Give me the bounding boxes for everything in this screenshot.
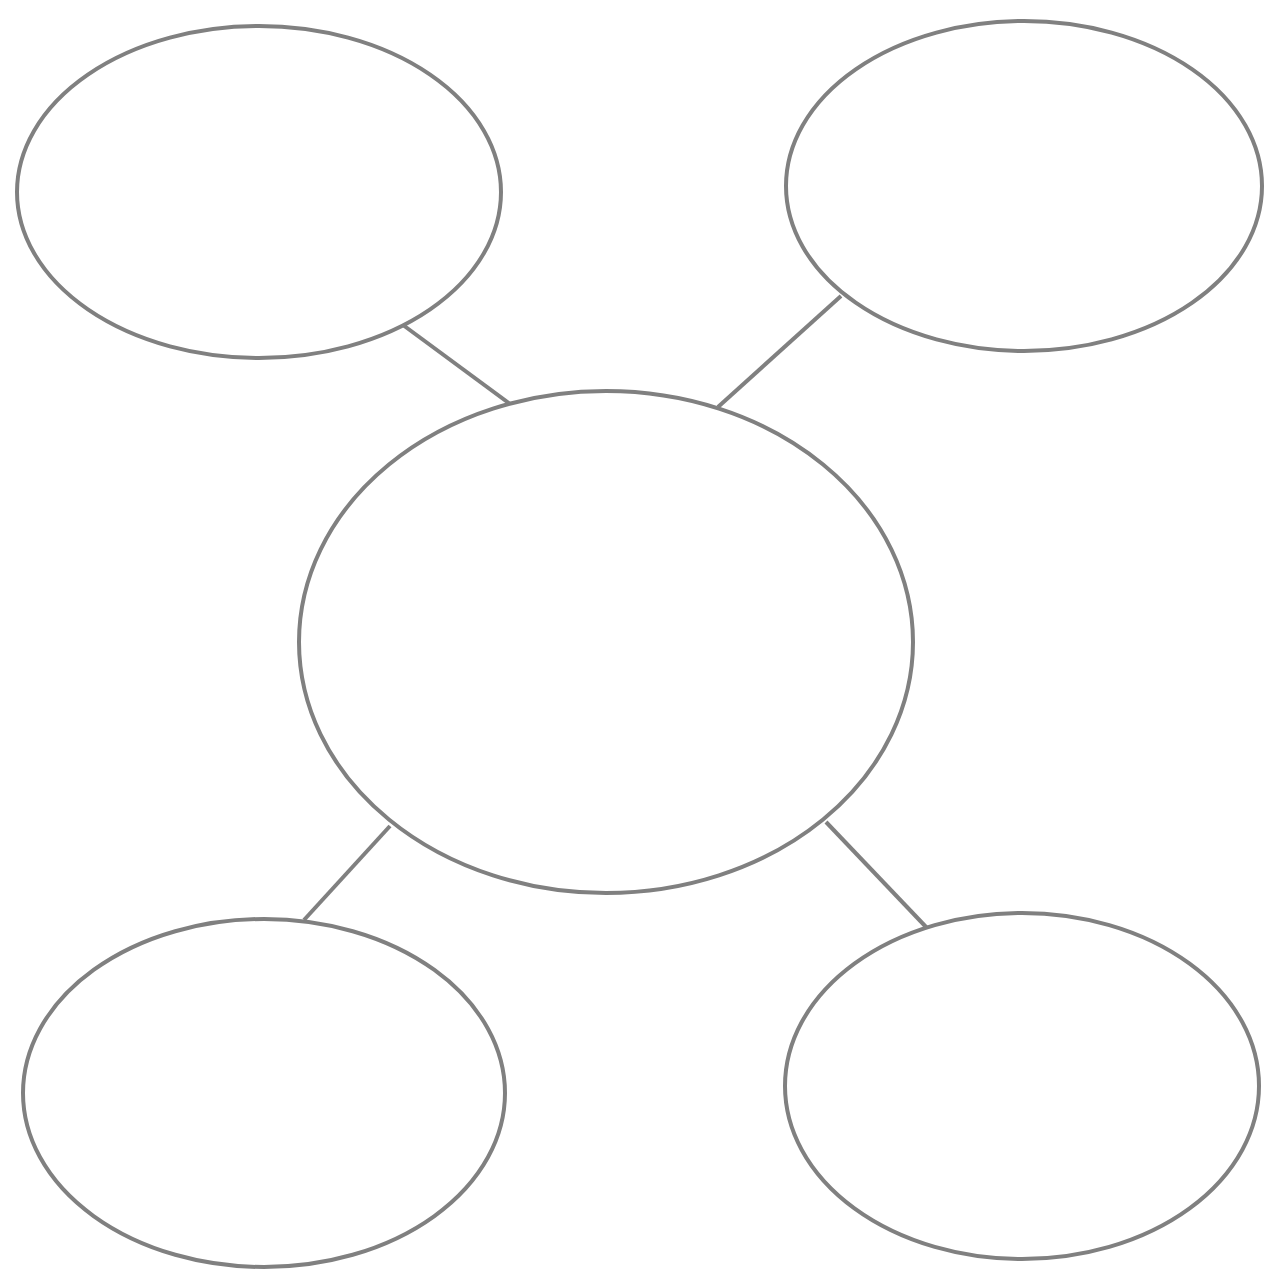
node-center [299,391,913,893]
connector-top-left [403,325,510,404]
connector-top-right [718,296,841,407]
node-bottom-left [23,919,505,1267]
node-top-left [17,26,501,358]
connector-bottom-right [826,822,927,928]
node-top-right [786,21,1262,351]
ellipse-top-left [17,26,501,358]
node-bottom-right [785,913,1259,1259]
ellipse-bottom-left [23,919,505,1267]
bubble-nodes [17,21,1262,1267]
bubble-map-diagram [0,0,1274,1286]
ellipse-top-right [786,21,1262,351]
connector-bottom-left [304,826,390,920]
ellipse-center [299,391,913,893]
ellipse-bottom-right [785,913,1259,1259]
